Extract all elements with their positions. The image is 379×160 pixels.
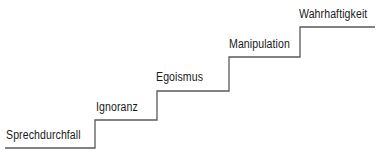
- step-label-ignoranz: Ignoranz: [96, 100, 138, 114]
- step-label-sprechdurchfall: Sprechdurchfall: [6, 128, 81, 142]
- step-label-egoismus: Egoismus: [156, 70, 203, 84]
- step-label-wahrhaftigkeit: Wahrhaftigkeit: [299, 7, 367, 21]
- step-label-manipulation: Manipulation: [229, 37, 290, 51]
